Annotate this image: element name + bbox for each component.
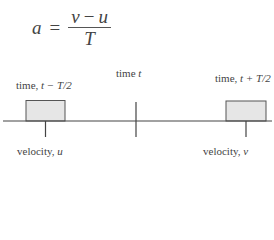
left-velocity-var: u (57, 145, 63, 157)
right-time-prefix: time, (215, 72, 240, 84)
left-time-expression: t − T/2 (41, 79, 72, 91)
right-velocity-var: v (243, 145, 248, 157)
right-time-label: time, t + T/2 (215, 72, 271, 84)
left-time-label: time, t − T/2 (16, 79, 72, 91)
center-time-prefix: time (116, 67, 138, 79)
left-interval-box (26, 101, 65, 122)
center-time-expression: t (138, 67, 141, 79)
left-velocity-label: velocity, u (17, 145, 63, 157)
center-time-label: time t (116, 67, 141, 79)
left-time-prefix: time, (16, 79, 41, 91)
right-interval-box (226, 101, 266, 121)
right-velocity-label: velocity, v (203, 145, 248, 157)
right-velocity-prefix: velocity, (203, 145, 243, 157)
left-velocity-prefix: velocity, (17, 145, 57, 157)
right-time-expression: t + T/2 (240, 72, 271, 84)
